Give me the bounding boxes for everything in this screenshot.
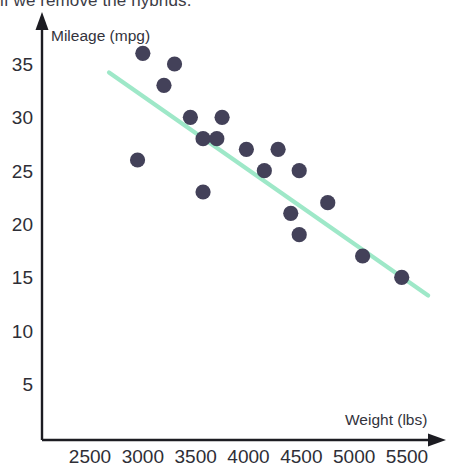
data-point — [183, 110, 198, 125]
x-tick-label: 3000 — [122, 446, 164, 467]
x-axis-title: Weight (lbs) — [345, 411, 427, 428]
data-point — [270, 142, 285, 157]
y-tick-label: 30 — [12, 107, 33, 128]
y-tick-label: 10 — [12, 321, 33, 342]
data-points — [130, 46, 409, 285]
y-axis-title: Mileage (mpg) — [51, 27, 150, 44]
y-tick-label: 35 — [12, 54, 33, 75]
data-point — [130, 152, 145, 167]
x-axis-group — [42, 434, 446, 447]
x-axis-arrowhead — [428, 434, 446, 447]
x-tick-labels: 2500300035004000450050005500 — [69, 446, 428, 467]
data-point — [394, 270, 409, 285]
data-point — [292, 227, 307, 242]
data-point — [167, 56, 182, 71]
data-point — [156, 78, 171, 93]
scatter-plot-page: if we remove the hybrids. 5101520253035 … — [0, 0, 453, 467]
data-point — [239, 142, 254, 157]
x-tick-label: 5000 — [333, 446, 375, 467]
x-tick-label: 4000 — [227, 446, 269, 467]
data-point — [195, 184, 210, 199]
data-point — [355, 248, 370, 263]
data-point — [195, 131, 210, 146]
y-tick-label: 25 — [12, 161, 33, 182]
y-tick-label: 20 — [12, 214, 33, 235]
data-point — [320, 195, 335, 210]
x-tick-label: 5500 — [386, 446, 428, 467]
data-point — [214, 110, 229, 125]
y-tick-label: 15 — [12, 267, 33, 288]
x-tick-label: 3500 — [175, 446, 217, 467]
data-point — [209, 131, 224, 146]
x-tick-label: 2500 — [69, 446, 111, 467]
y-tick-labels: 5101520253035 — [12, 54, 33, 395]
x-tick-label: 4500 — [280, 446, 322, 467]
y-axis-arrowhead — [36, 12, 49, 30]
data-point — [135, 46, 150, 61]
y-axis-group — [36, 12, 49, 440]
y-tick-label: 5 — [22, 374, 33, 395]
data-point — [283, 206, 298, 221]
data-point — [292, 163, 307, 178]
trendline — [109, 73, 428, 296]
chart-canvas: 5101520253035 25003000350040004500500055… — [0, 0, 453, 467]
data-point — [257, 163, 272, 178]
